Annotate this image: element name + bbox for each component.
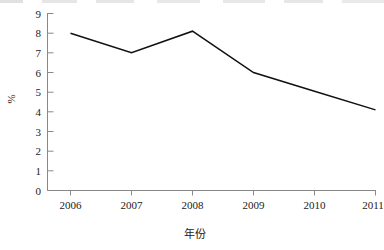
y-tick-label-5: 5: [36, 86, 42, 98]
line-chart-svg: 9 8 7 6 5 4 3 2 1 0 %: [0, 0, 384, 250]
y-tick-label-6: 6: [36, 67, 42, 79]
y-tick-label-2: 2: [36, 145, 42, 157]
y-tick-label-1: 1: [36, 165, 42, 177]
y-tick-label-4: 4: [36, 106, 42, 118]
y-tick-label-9: 9: [36, 8, 42, 20]
x-tick-label-2009: 2009: [243, 199, 266, 211]
chart-figure: 9 8 7 6 5 4 3 2 1 0 %: [0, 0, 384, 250]
chart-background: [0, 0, 384, 250]
x-tick-label-2008: 2008: [182, 199, 205, 211]
x-axis-title: 年份: [184, 227, 206, 241]
y-axis-title: %: [5, 94, 17, 103]
x-tick-label-2011: 2011: [362, 199, 384, 211]
y-tick-label-7: 7: [36, 47, 42, 59]
x-tick-label-2006: 2006: [60, 199, 83, 211]
x-tick-label-2007: 2007: [121, 199, 144, 211]
y-tick-label-3: 3: [36, 126, 42, 138]
y-tick-label-8: 8: [36, 27, 42, 39]
x-tick-label-2010: 2010: [304, 199, 327, 211]
y-tick-label-0: 0: [36, 185, 42, 197]
